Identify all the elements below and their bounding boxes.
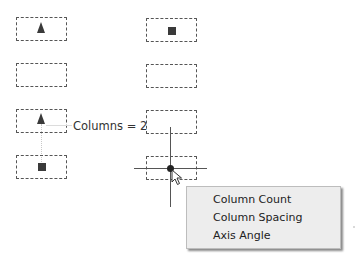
triangle-marker-icon [37,22,45,33]
triangle-marker-icon [37,113,45,124]
background-speck [353,226,355,228]
grid-cell-col1-row2[interactable] [16,63,67,87]
context-menu: Column Count Column Spacing Axis Angle [186,186,341,249]
grid-cell-col2-row2[interactable] [146,64,197,88]
columns-count-label: Columns = 2 [73,120,147,133]
horizontal-guide-line [46,125,72,126]
square-marker-icon [38,163,46,171]
menu-item-column-spacing[interactable]: Column Spacing [213,211,302,225]
mouse-pointer-icon [171,169,183,186]
square-marker-icon [168,27,176,35]
menu-item-axis-angle[interactable]: Axis Angle [213,229,271,243]
menu-item-column-count[interactable]: Column Count [213,193,291,207]
grid-cell-col2-row3[interactable] [146,110,197,134]
